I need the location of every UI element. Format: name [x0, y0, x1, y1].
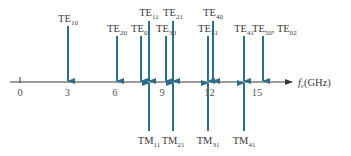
tm-label-41: TM41 [233, 135, 256, 149]
tick-label: 0 [17, 87, 22, 98]
tm-mode-arrows: TM11TM21TM31TM41 [138, 83, 256, 149]
tick-label: 3 [65, 87, 70, 98]
axis-label: fc(GHz) [298, 77, 331, 90]
te-label-11: TE11 [139, 7, 159, 21]
frequency-axis: 03691215fc(GHz) [10, 77, 331, 98]
te-label-40: TE40 [203, 7, 223, 21]
te-label-10: TE10 [58, 13, 78, 27]
tm-label-31: TM31 [197, 135, 220, 149]
te-label-20: TE20 [107, 23, 127, 37]
tm-label-11: TM11 [138, 135, 161, 149]
te-label-50: TE50, TE02 [252, 23, 297, 37]
tick-label: 6 [112, 87, 117, 98]
cutoff-frequency-diagram: 03691215fc(GHz) TE10TE20TE01TE11TE30TE21… [0, 0, 351, 156]
te-mode-arrows: TE10TE20TE01TE11TE30TE21TE31TE40TE41TE50… [58, 7, 297, 81]
tick-label: 12 [204, 87, 215, 98]
tick-label: 15 [252, 87, 263, 98]
tm-label-21: TM21 [162, 135, 185, 149]
te-label-31: TE31 [198, 23, 218, 37]
tick-label: 9 [160, 87, 165, 98]
te-label-21: TE21 [163, 7, 183, 21]
